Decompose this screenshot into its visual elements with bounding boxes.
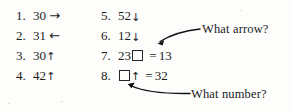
item-value: 52 [118, 6, 131, 26]
list-item: 1.30→ [16, 6, 60, 26]
item-value: 42 [33, 66, 46, 86]
item-value: 12 [118, 26, 131, 46]
annotation-label-what-arrow: What arrow? [202, 22, 269, 37]
item-number: 6. [101, 26, 118, 46]
left-arrow-icon: ← [49, 26, 60, 46]
item-number: 5. [101, 6, 118, 26]
list-item: 6.12↓ [101, 26, 172, 46]
item-value: 30 [33, 6, 46, 26]
equals-sign: = [145, 68, 152, 83]
empty-box-icon [132, 50, 143, 61]
worksheet-page: 1.30→ 2.31← 3.30↑ 4.42↑ 5.52↓ 6.12↓ 7.23… [0, 0, 293, 112]
right-arrow-icon: → [49, 6, 60, 26]
list-item: 2.31← [16, 26, 60, 46]
list-item: 4.42↑ [16, 66, 60, 86]
list-item: 3.30↑ [16, 46, 60, 66]
item-value: 31 [33, 26, 46, 46]
up-arrow-icon: ↑ [131, 67, 140, 87]
annotation-label-what-number: What number? [191, 87, 267, 102]
item-number: 3. [16, 46, 33, 66]
item-number: 2. [16, 26, 33, 46]
item-result: 13 [159, 48, 172, 63]
list-item: 5.52↓ [101, 6, 172, 26]
scan-speck [240, 10, 242, 11]
list-item: 7.23=13 [101, 46, 172, 66]
item-number: 4. [16, 66, 33, 86]
scan-speck [60, 101, 63, 102]
up-arrow-icon: ↑ [46, 67, 55, 87]
equals-sign: = [149, 48, 156, 63]
empty-box-icon [119, 70, 130, 81]
down-arrow-icon: ↓ [131, 28, 140, 48]
item-number: 8. [101, 66, 118, 86]
item-number: 1. [16, 6, 33, 26]
item-number: 7. [101, 46, 118, 66]
scan-speck [8, 103, 10, 104]
exercise-column-left: 1.30→ 2.31← 3.30↑ 4.42↑ [16, 6, 60, 86]
down-arrow-icon: ↓ [131, 8, 140, 28]
exercise-column-right: 5.52↓ 6.12↓ 7.23=13 8.↑=32 [101, 6, 172, 86]
list-item: 8.↑=32 [101, 66, 172, 86]
up-arrow-icon: ↑ [46, 47, 55, 67]
item-result: 32 [155, 68, 168, 83]
item-value: 30 [33, 46, 46, 66]
item-value: 23 [118, 46, 131, 66]
